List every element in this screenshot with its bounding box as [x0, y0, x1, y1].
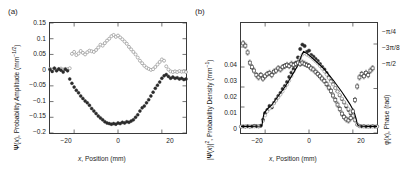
data-point — [185, 71, 188, 74]
data-point — [334, 87, 337, 90]
data-point — [125, 42, 128, 45]
data-point — [70, 82, 73, 85]
data-point — [81, 97, 84, 100]
data-point — [338, 94, 341, 97]
data-point — [323, 79, 326, 82]
data-point — [77, 91, 80, 94]
panel-b-ytick-left-4: 0 — [207, 125, 237, 132]
data-point — [351, 110, 354, 113]
panel-b-ytick-left-1: 0.03 — [207, 77, 237, 84]
data-point — [136, 56, 139, 59]
data-point — [163, 59, 166, 62]
data-point — [160, 77, 163, 80]
data-point — [303, 44, 306, 47]
data-point — [156, 84, 159, 87]
data-point — [134, 116, 137, 119]
panel-a-ytick-4: −0.05 — [18, 81, 46, 88]
data-point — [88, 104, 91, 107]
panel-a-xtick-0: −20 — [52, 137, 80, 144]
panel-a-series-1 — [49, 67, 188, 126]
data-point — [53, 67, 56, 70]
data-point — [340, 112, 343, 115]
data-point — [86, 101, 89, 104]
data-point — [152, 91, 155, 94]
data-point — [340, 97, 343, 100]
data-point — [138, 110, 141, 113]
data-point — [336, 90, 339, 93]
data-point — [358, 76, 361, 79]
data-point — [246, 51, 249, 54]
panel-b-xtick-1: 0 — [295, 137, 323, 144]
data-point — [327, 77, 330, 80]
data-point — [62, 71, 65, 74]
data-point — [299, 47, 302, 50]
data-point — [68, 67, 71, 70]
data-point — [336, 103, 339, 106]
panel-a-ytick-1: 0.1 — [18, 35, 46, 42]
data-point — [75, 89, 78, 92]
panel-a-ytick-5: −0.1 — [18, 97, 46, 104]
panel-b-ytick-left-3: 0.01 — [207, 109, 237, 116]
data-point — [92, 110, 95, 113]
data-point — [307, 49, 310, 52]
data-point — [51, 70, 54, 73]
data-point — [343, 101, 346, 104]
data-point — [185, 77, 188, 80]
data-point — [143, 104, 146, 107]
data-point — [332, 94, 335, 97]
data-point — [97, 46, 100, 49]
panel-b-plot-area — [240, 22, 378, 134]
data-point — [356, 85, 359, 88]
data-point — [345, 104, 348, 107]
data-point — [329, 89, 332, 92]
data-point — [73, 50, 76, 53]
data-point — [95, 112, 98, 115]
panel-a-ytick-2: 0.05 — [18, 50, 46, 57]
panel-a-plot-area — [49, 22, 187, 134]
data-point — [347, 108, 350, 111]
panel-a-ytick-3: 0 — [18, 66, 46, 73]
data-point — [79, 94, 82, 97]
data-point — [244, 44, 247, 47]
panel-b-xtick-0: −20 — [243, 137, 271, 144]
data-point — [136, 113, 139, 116]
panel-a-ytick-6: −0.15 — [18, 112, 46, 119]
data-point — [371, 67, 374, 70]
data-point — [250, 66, 253, 69]
data-point — [165, 65, 168, 68]
data-point — [362, 75, 365, 78]
panel-b-xtick-2: 20 — [347, 137, 375, 144]
panel-b-ytick-left-2: 0.02 — [207, 93, 237, 100]
data-point — [158, 81, 161, 84]
panel-a-series-0 — [49, 33, 188, 73]
panel-a-xtick-1: 0 — [104, 137, 132, 144]
panel-b-ytick-right-1: −3π/8 — [382, 44, 400, 51]
panel-b-xlabel: x, Position (mm) — [269, 155, 317, 162]
data-point — [329, 80, 332, 83]
data-point — [147, 98, 150, 101]
data-point — [154, 87, 157, 90]
data-point — [270, 74, 273, 77]
data-point — [338, 108, 341, 111]
data-point — [325, 83, 328, 86]
panel-a: (a) Ψ(x), Probability Amplitude (mm−1/2)… — [0, 0, 193, 191]
data-point — [132, 118, 135, 121]
data-point — [253, 69, 256, 72]
panel-a-ytick-0: 0.15 — [18, 19, 46, 26]
data-point — [90, 107, 93, 110]
data-point — [259, 74, 262, 77]
data-point — [327, 86, 330, 89]
panel-b-series-1 — [240, 52, 379, 129]
panel-b-label: (b) — [195, 7, 205, 16]
data-point — [349, 117, 352, 120]
panel-a-ytick-7: −0.2 — [18, 128, 46, 135]
panel-b-ytick-right-2: −π/2 — [382, 60, 396, 67]
panel-b-ytick-right-0: −π/4 — [382, 28, 396, 35]
data-point — [332, 83, 335, 86]
data-point — [66, 69, 69, 72]
panel-b-ytick-left-0: 0.04 — [207, 61, 237, 68]
data-point — [134, 53, 137, 56]
data-point — [367, 74, 370, 77]
panel-a-label: (a) — [8, 7, 18, 16]
